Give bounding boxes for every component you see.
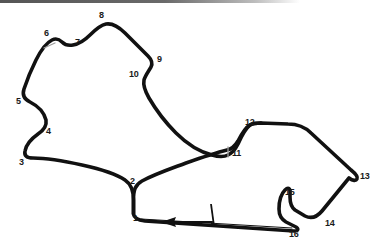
turn-label-16: 16 xyxy=(289,230,299,239)
turn-label-8: 8 xyxy=(99,11,104,20)
turn-label-9: 9 xyxy=(157,55,162,64)
turn-label-6: 6 xyxy=(44,29,49,38)
track-upper-loop-path xyxy=(23,24,261,214)
turn-label-4: 4 xyxy=(46,127,51,136)
track-outline-path xyxy=(134,123,358,231)
circuit-track-drawing xyxy=(0,0,383,252)
turn-label-10: 10 xyxy=(129,70,139,79)
turn-label-5: 5 xyxy=(16,97,21,106)
turn-label-2: 2 xyxy=(130,177,135,186)
turn-label-13: 13 xyxy=(360,172,370,181)
turn-label-14: 14 xyxy=(325,219,335,228)
turn-label-7: 7 xyxy=(75,38,80,47)
turn-label-15: 15 xyxy=(285,188,295,197)
turn-label-11: 11 xyxy=(232,149,241,158)
turn-label-3: 3 xyxy=(19,158,24,167)
circuit-map-canvas: 1 2 3 4 5 6 7 8 9 10 11 12 13 14 15 16 xyxy=(0,0,383,252)
turn-label-12: 12 xyxy=(245,118,255,127)
turn-label-1: 1 xyxy=(133,214,138,223)
